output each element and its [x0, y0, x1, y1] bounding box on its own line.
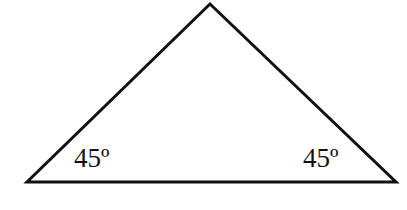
angle-label-left: 45º	[74, 145, 109, 172]
diagram-canvas: 45º 45º	[0, 0, 407, 210]
triangle-figure	[0, 0, 407, 210]
angle-label-right: 45º	[303, 145, 338, 172]
